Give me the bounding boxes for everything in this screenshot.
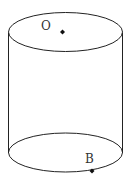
- cylinder-diagram: O B: [0, 0, 131, 184]
- top-ellipse: [9, 13, 123, 52]
- label-o: O: [41, 19, 51, 33]
- bottom-ellipse: [9, 133, 123, 172]
- label-b: B: [85, 152, 94, 166]
- center-point-o: [60, 30, 65, 35]
